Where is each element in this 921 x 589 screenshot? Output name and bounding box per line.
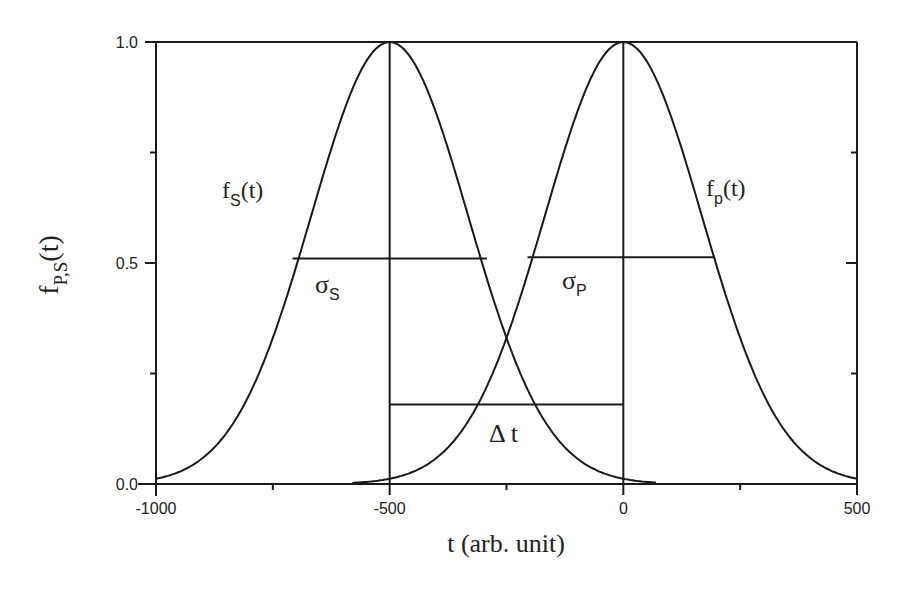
- y-axis-title-sub: P,S: [50, 262, 71, 286]
- curves: [156, 42, 857, 483]
- fs-label: fS(t): [222, 177, 263, 209]
- x-tick-label: -1000: [136, 500, 177, 517]
- svg-text:fP,S(t): fP,S(t): [33, 235, 71, 295]
- y-axis-title: fP,S(t): [33, 235, 71, 295]
- y-tick-label: 0.5: [116, 255, 138, 272]
- x-tick-label: 0: [619, 500, 628, 517]
- curve-fst: [156, 42, 656, 483]
- x-axis-title: t (arb. unit): [447, 529, 565, 558]
- x-tick-label: -500: [374, 500, 406, 517]
- x-tick-label: 500: [844, 500, 871, 517]
- gaussian-pulses-chart: -1000-50005000.00.51.0 t (arb. unit) fP,…: [0, 0, 921, 589]
- fp-label: fp(t): [706, 175, 746, 207]
- y-tick-label: 0.0: [116, 476, 138, 493]
- sigma-s-label: σS: [315, 270, 340, 303]
- curve-fpt: [352, 42, 857, 483]
- delta-t-label: Δ t: [489, 419, 519, 448]
- y-axis-title-suffix: (t): [33, 235, 64, 261]
- y-tick-label: 1.0: [116, 34, 138, 51]
- sigma-p-label: σP: [562, 266, 587, 299]
- annotation-lines: [292, 42, 714, 484]
